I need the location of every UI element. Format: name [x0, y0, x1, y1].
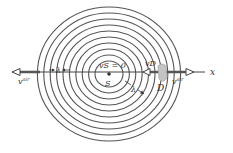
source-label: S: [105, 79, 111, 88]
wavelength-diag-label: λ: [130, 85, 136, 94]
wavelength-left-arrow-icon: [52, 69, 55, 72]
wavelength-left-label: λ: [55, 66, 61, 75]
detector-icon: [158, 64, 167, 81]
doppler-diagram: x vair vair vD D vS = 0 S λ λ: [0, 0, 233, 153]
wind-right-arrowhead-icon: [186, 69, 194, 76]
source-velocity-label: vS = 0: [99, 61, 126, 70]
detector-label: D: [156, 83, 164, 93]
x-axis-label: x: [210, 67, 215, 77]
wind-right-label: vair: [172, 76, 184, 86]
detector-velocity-label: vD: [145, 59, 157, 68]
wind-left-label: vair: [18, 76, 30, 86]
source-dot-icon: [107, 72, 111, 76]
detector-velocity-arrowhead-icon: [143, 69, 150, 76]
wind-left-arrowhead-icon: [12, 69, 20, 76]
